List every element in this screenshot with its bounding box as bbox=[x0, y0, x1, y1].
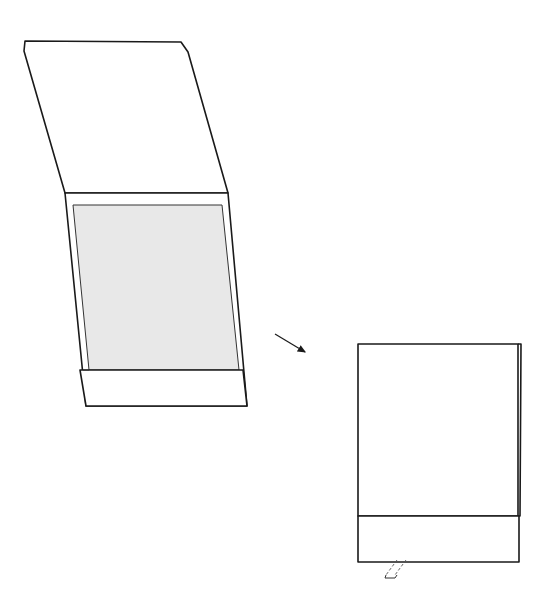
closed-bottom-pocket bbox=[358, 516, 519, 562]
diagram-canvas bbox=[0, 0, 551, 607]
closed-folder bbox=[358, 344, 521, 578]
inner-panel bbox=[73, 205, 239, 370]
front-cover bbox=[358, 344, 518, 516]
top-flap bbox=[24, 41, 228, 193]
transition-arrow-icon bbox=[275, 334, 305, 352]
bottom-pocket bbox=[80, 370, 247, 406]
open-folder bbox=[24, 41, 247, 406]
